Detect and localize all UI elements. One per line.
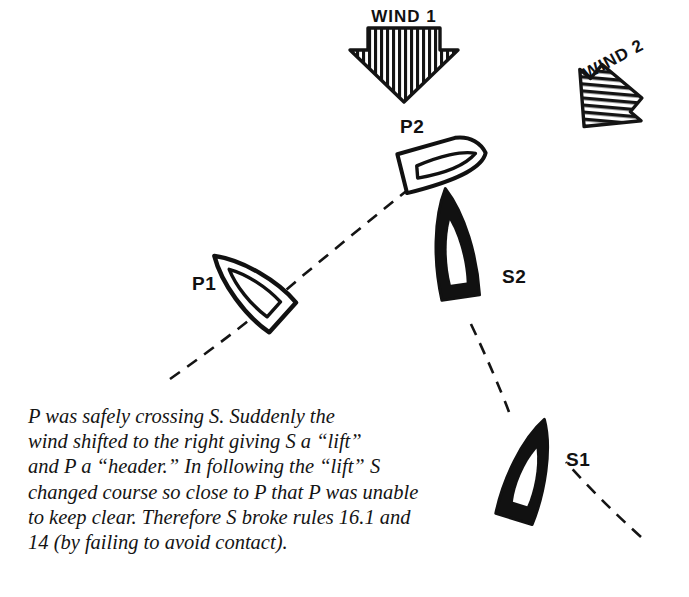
diagram-page: WIND 1 WIND 2 S2 P2 P1 bbox=[0, 0, 689, 597]
boat-p2 bbox=[397, 132, 491, 194]
caption-line: to keep clear. Therefore S broke rules 1… bbox=[28, 505, 458, 530]
wind-1-label-text: WIND 1 bbox=[371, 7, 437, 26]
boat-s1-label: S1 bbox=[566, 449, 590, 470]
boat-p2-label: P2 bbox=[400, 116, 424, 137]
wind-1-label: WIND 1 bbox=[371, 7, 437, 26]
caption-line: 14 (by failing to avoid contact). bbox=[28, 530, 458, 555]
caption-line: wind shifted to the right giving S a “li… bbox=[28, 429, 458, 454]
caption-line: changed course so close to P that P was … bbox=[28, 480, 458, 505]
boat-s2-label: S2 bbox=[502, 266, 526, 287]
caption-line: and P a “header.” In following the “lift… bbox=[28, 454, 458, 479]
boat-p1-label: P1 bbox=[192, 273, 216, 294]
track-s bbox=[470, 322, 641, 537]
wind-arrow-1 bbox=[350, 28, 458, 102]
caption-line: P was safely crossing S. Suddenly the bbox=[28, 404, 458, 429]
boat-s2 bbox=[426, 186, 480, 300]
boat-s1 bbox=[495, 414, 563, 525]
caption-block: P was safely crossing S. Suddenly the wi… bbox=[28, 404, 458, 555]
